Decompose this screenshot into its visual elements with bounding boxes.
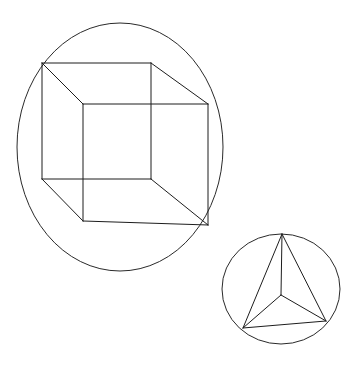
diagram-canvas bbox=[0, 0, 364, 368]
canvas-background bbox=[0, 0, 364, 368]
